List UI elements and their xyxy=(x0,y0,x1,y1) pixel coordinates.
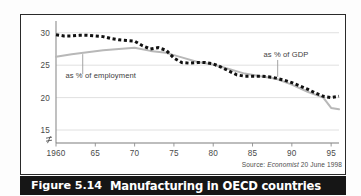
gridlines-group xyxy=(56,33,339,130)
svg-text:75: 75 xyxy=(169,149,179,158)
svg-text:15: 15 xyxy=(40,126,50,135)
svg-text:as % of employment: as % of employment xyxy=(65,71,136,80)
y-axis-tick-labels: 15202530 xyxy=(40,29,50,135)
svg-text:65: 65 xyxy=(91,149,101,158)
svg-text:70: 70 xyxy=(130,149,140,158)
source-publication: Economist xyxy=(267,161,299,168)
source-prefix: Source: xyxy=(242,161,265,168)
svg-text:80: 80 xyxy=(208,149,218,158)
figure-caption-title: Manufacturing in OECD countries xyxy=(110,179,321,193)
svg-text:90: 90 xyxy=(287,149,297,158)
svg-text:20: 20 xyxy=(40,94,50,103)
chart-frame: 15202530 196065707580859095 as % of empl… xyxy=(20,14,346,175)
svg-text:95: 95 xyxy=(326,149,336,158)
axis-break-symbol xyxy=(46,136,52,143)
figure-container: 15202530 196065707580859095 as % of empl… xyxy=(0,0,361,196)
svg-text:30: 30 xyxy=(40,29,50,38)
source-credit: Source: Economist 20 June 1998 xyxy=(20,161,342,168)
svg-text:1960: 1960 xyxy=(46,149,65,158)
figure-caption-number: Figure 5.14 xyxy=(31,179,102,192)
chart-plot: 15202530 196065707580859095 as % of empl… xyxy=(21,15,347,176)
source-date: 20 June 1998 xyxy=(301,161,342,168)
x-axis-tick-labels: 196065707580859095 xyxy=(46,149,336,158)
svg-text:25: 25 xyxy=(40,61,50,70)
svg-text:85: 85 xyxy=(248,149,258,158)
svg-text:as % of GDP: as % of GDP xyxy=(264,50,309,59)
figure-caption-bar: Figure 5.14 Manufacturing in OECD countr… xyxy=(20,176,346,195)
series-line-gdp xyxy=(56,35,339,98)
